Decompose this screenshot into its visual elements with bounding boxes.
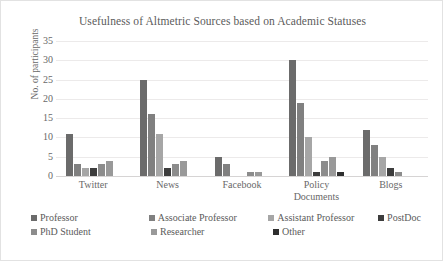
y-axis-tick-label: 20	[43, 94, 53, 104]
bar-group	[56, 41, 130, 176]
chart-legend: ProfessorAssociate ProfessorAssistant Pr…	[31, 212, 421, 240]
bar[interactable]	[379, 157, 386, 176]
legend-label: PhD Student	[40, 226, 91, 237]
bar[interactable]	[363, 130, 370, 176]
bar[interactable]	[148, 114, 155, 176]
y-axis-tick-label: 10	[43, 132, 53, 142]
legend-label: Professor	[40, 212, 78, 223]
bars-layer	[56, 41, 428, 176]
bar[interactable]	[321, 161, 328, 176]
legend-label: Researcher	[160, 226, 204, 237]
bar-group	[279, 41, 353, 176]
legend-label: Assistant Professor	[277, 212, 354, 223]
legend-swatch-icon	[268, 215, 274, 221]
bar[interactable]	[66, 134, 73, 176]
bar[interactable]	[140, 80, 147, 176]
x-axis-label: Facebook	[205, 179, 279, 203]
bar[interactable]	[255, 172, 262, 176]
x-axis-label: Twitter	[56, 179, 130, 203]
legend-swatch-icon	[149, 215, 155, 221]
y-axis-tick-label: 5	[48, 152, 53, 162]
bar[interactable]	[98, 164, 105, 176]
bar[interactable]	[82, 168, 89, 176]
chart-title: Usefulness of Altmetric Sources based on…	[1, 15, 443, 27]
legend-item[interactable]: Assistant Professor	[268, 212, 378, 223]
bar-group	[354, 41, 428, 176]
bar[interactable]	[305, 137, 312, 176]
y-axis-tick-label: 35	[43, 36, 53, 46]
chart-card: Usefulness of Altmetric Sources based on…	[0, 0, 443, 261]
x-axis-label: Blogs	[354, 179, 428, 203]
legend-label: PostDoc	[387, 212, 421, 223]
bar[interactable]	[74, 164, 81, 176]
bar[interactable]	[297, 103, 304, 176]
bar[interactable]	[180, 161, 187, 176]
bar[interactable]	[387, 168, 394, 176]
legend-swatch-icon	[31, 215, 37, 221]
y-axis-tick-label: 0	[48, 171, 53, 181]
legend-row: ProfessorAssociate ProfessorAssistant Pr…	[31, 212, 421, 223]
legend-swatch-icon	[31, 229, 37, 235]
legend-item[interactable]: Professor	[31, 212, 149, 223]
x-axis-labels: TwitterNewsFacebookPolicyDocumentsBlogs	[56, 179, 428, 203]
bar[interactable]	[395, 172, 402, 176]
bar-group	[130, 41, 204, 176]
legend-item[interactable]: Other	[273, 226, 385, 237]
bar[interactable]	[90, 168, 97, 176]
bar[interactable]	[247, 172, 254, 176]
legend-item[interactable]: Researcher	[151, 226, 273, 237]
bar[interactable]	[215, 157, 222, 176]
y-axis-tick-label: 15	[43, 113, 53, 123]
legend-label: Associate Professor	[158, 212, 237, 223]
legend-item[interactable]: PostDoc	[378, 212, 421, 223]
y-axis-tick-label: 25	[43, 75, 53, 85]
y-axis-ticks: 05101520253035	[23, 41, 53, 176]
x-axis-label: PolicyDocuments	[279, 179, 353, 203]
bar[interactable]	[329, 157, 336, 176]
bar[interactable]	[371, 145, 378, 176]
legend-item[interactable]: Associate Professor	[149, 212, 269, 223]
bar[interactable]	[164, 168, 171, 176]
legend-row: PhD StudentResearcherOther	[31, 226, 421, 237]
legend-swatch-icon	[151, 229, 157, 235]
x-axis-label: News	[130, 179, 204, 203]
plot-area	[56, 41, 428, 176]
bar[interactable]	[223, 164, 230, 176]
legend-swatch-icon	[378, 215, 384, 221]
bar-group	[205, 41, 279, 176]
bar[interactable]	[106, 161, 113, 176]
bar[interactable]	[337, 172, 344, 176]
legend-label: Other	[282, 226, 305, 237]
y-axis-tick-label: 30	[43, 55, 53, 65]
bar[interactable]	[313, 172, 320, 176]
legend-item[interactable]: PhD Student	[31, 226, 151, 237]
bar[interactable]	[172, 164, 179, 176]
legend-swatch-icon	[273, 229, 279, 235]
gridline	[56, 176, 428, 177]
bar[interactable]	[156, 134, 163, 176]
bar[interactable]	[289, 60, 296, 176]
